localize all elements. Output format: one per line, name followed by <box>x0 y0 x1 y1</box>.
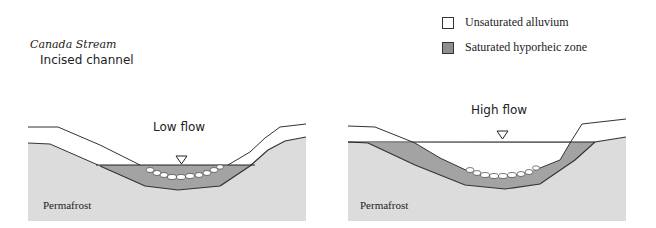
water-level-icon <box>497 131 508 139</box>
permafrost-label-left: Permafrost <box>43 199 91 211</box>
water-level-icon <box>176 156 187 164</box>
high-flow-label: High flow <box>471 103 527 117</box>
low-flow-label: Low flow <box>153 120 205 134</box>
cross-section-diagrams <box>0 0 656 228</box>
permafrost-label-right: Permafrost <box>360 199 408 211</box>
